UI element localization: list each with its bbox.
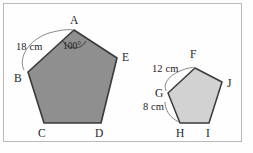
dimension-label-8cm: 8 cm bbox=[143, 102, 164, 113]
angle-label-100deg: 100° bbox=[63, 42, 81, 52]
pentagon-fghij-shape bbox=[168, 68, 222, 123]
vertex-label-h: H bbox=[176, 128, 184, 140]
vertex-label-g: G bbox=[155, 88, 163, 100]
vertex-label-d: D bbox=[95, 128, 103, 140]
vertex-label-c: C bbox=[38, 128, 46, 140]
pentagon-fghij-group bbox=[165, 68, 222, 123]
vertex-label-a: A bbox=[70, 15, 78, 27]
vertex-label-j: J bbox=[227, 78, 231, 90]
dimension-label-12cm: 12 cm bbox=[152, 64, 178, 75]
vertex-label-e: E bbox=[122, 52, 129, 64]
vertex-label-f: F bbox=[190, 49, 196, 61]
vertex-label-b: B bbox=[14, 73, 22, 85]
dimension-label-18cm: 18 cm bbox=[16, 42, 42, 53]
figure-root: A B C D E 18 cm 100° F G H I J 12 cm 8 c… bbox=[0, 0, 253, 153]
vertex-label-i: I bbox=[206, 128, 210, 140]
